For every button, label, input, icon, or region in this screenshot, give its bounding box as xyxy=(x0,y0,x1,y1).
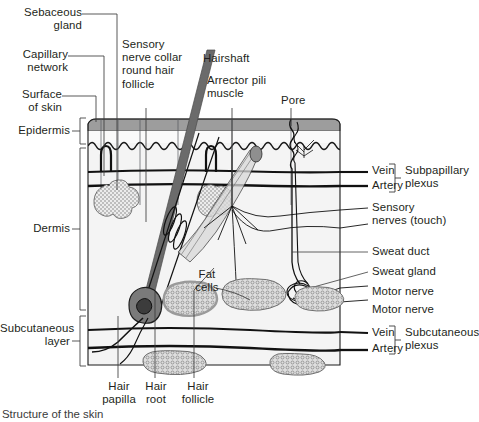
label-sensory-nerve-collar: Sensory nerve collar round hair follicle xyxy=(122,38,198,91)
label-hair-follicle: Hair follicle xyxy=(174,380,222,406)
layer-brackets xyxy=(72,118,86,366)
label-surface-of-skin: Surface of skin xyxy=(0,88,62,114)
fat-lobule-4 xyxy=(143,351,206,375)
label-pore: Pore xyxy=(281,94,325,107)
label-arrector-pili-muscle: Arrector pili muscle xyxy=(207,74,289,100)
label-subcutaneous-plexus: Subcutaneous plexus xyxy=(405,326,477,352)
label-capillary-network: Capillary network xyxy=(0,48,68,74)
vein-leader-lower xyxy=(340,332,368,333)
fat-lobule-2 xyxy=(222,279,286,311)
label-hairshaft: Hairshaft xyxy=(203,52,273,65)
label-dermis: Dermis xyxy=(0,222,70,235)
label-motor-nerve-1: Motor nerve xyxy=(372,285,462,298)
label-sensory-nerves-touch: Sensory nerves (touch) xyxy=(372,201,472,227)
label-fat-cells: Fat cells xyxy=(186,268,228,294)
label-motor-nerve-2: Motor nerve xyxy=(372,303,462,316)
label-subpapillary-plexus: Subpapillary plexus xyxy=(405,164,477,190)
bracket-dermis xyxy=(80,148,86,310)
label-epidermis: Epidermis xyxy=(0,124,70,137)
bracket-subcutaneous xyxy=(80,316,86,366)
hair-papilla-shape xyxy=(137,299,152,315)
leader-surface-of-skin xyxy=(62,96,96,122)
label-subcutaneous-layer: Subcutaneous layer xyxy=(0,322,70,348)
label-sweat-gland: Sweat gland xyxy=(372,265,462,278)
label-sebaceous-gland: Sebaceous gland xyxy=(0,6,82,32)
bracket-epidermis xyxy=(80,118,86,144)
figure-caption: Structure of the skin xyxy=(2,408,103,420)
label-hair-root: Hair root xyxy=(136,380,176,406)
arrector-pili-attachment xyxy=(250,146,262,162)
fat-lobule-3 xyxy=(295,287,344,311)
label-sweat-duct: Sweat duct xyxy=(372,245,462,258)
fat-lobule-5 xyxy=(270,354,325,376)
epidermis-surface-band xyxy=(88,119,340,131)
